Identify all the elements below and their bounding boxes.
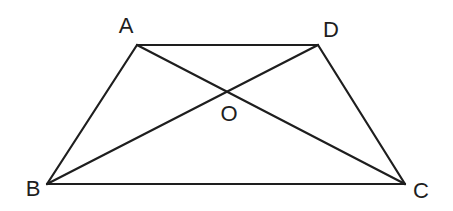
segment-ac xyxy=(137,45,405,184)
labels-group: A D B C O xyxy=(26,13,429,203)
segment-bd xyxy=(47,45,318,184)
segment-ab xyxy=(47,45,137,184)
trapezoid-diagram: A D B C O xyxy=(0,0,453,211)
vertex-label-c: C xyxy=(413,178,429,203)
vertex-label-d: D xyxy=(323,17,339,42)
vertex-label-a: A xyxy=(119,13,134,38)
vertex-label-b: B xyxy=(26,176,41,201)
segment-dc xyxy=(318,45,405,184)
intersection-label-o: O xyxy=(220,101,237,126)
